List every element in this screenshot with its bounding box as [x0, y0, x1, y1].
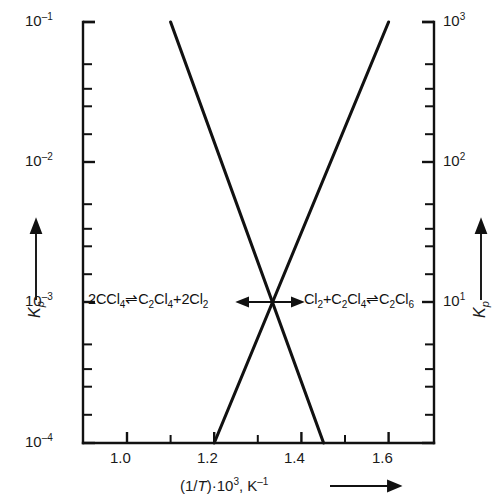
left-y-minor-ticks [83, 64, 92, 415]
left-arrow-head [238, 298, 248, 306]
left-axis-arrow-head [31, 220, 41, 233]
y-left-tick-label-2: 10–2 [25, 152, 53, 169]
right-y-major-ticks [422, 22, 434, 443]
y-left-axis-title: Kp [26, 301, 44, 318]
y-left-tick-label-1: 10–1 [25, 12, 53, 29]
left-axis-arrow [31, 220, 41, 300]
x-tick-label-4: 1.6 [372, 449, 393, 466]
x-tick-label-3: 1.4 [284, 449, 305, 466]
right-axis-arrow-head [476, 220, 486, 233]
left-y-major-ticks [83, 22, 95, 443]
annotation-left-reaction: 2CCl4⇌C2Cl4+2Cl2 [88, 291, 208, 307]
x-tick-label-2: 1.2 [197, 449, 218, 466]
x-axis-arrow [330, 481, 400, 491]
y-left-tick-label-4: 10–4 [25, 433, 53, 450]
x-axis-title: (1/T)·103, K–1 [180, 477, 268, 494]
chart-canvas [0, 0, 498, 503]
y-right-tick-label-2: 102 [443, 152, 465, 169]
axis-lines [83, 22, 434, 443]
y-right-axis-title: Kp [471, 301, 489, 318]
annotation-right-reaction: Cl2+C2Cl4⇌C2Cl6 [304, 291, 414, 307]
y-right-tick-label-1: 103 [443, 12, 465, 29]
right-y-minor-ticks [425, 64, 434, 415]
x-tick-label-1: 1.0 [110, 449, 131, 466]
x-axis-arrow-head [388, 481, 400, 491]
right-arrow-head [292, 298, 302, 306]
right-axis-arrow [476, 220, 486, 300]
y-right-tick-label-3: 101 [443, 292, 465, 309]
chart-container: 10–1 10–2 10–3 10–4 103 102 101 1.0 1.2 … [0, 0, 498, 503]
